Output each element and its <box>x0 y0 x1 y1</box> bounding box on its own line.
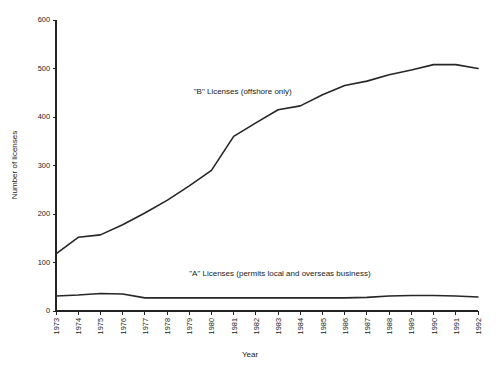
line-chart-canvas: 0100200300400500600 19731974197519761977… <box>0 0 504 375</box>
y-axis: 0100200300400500600 <box>38 15 56 315</box>
y-axis-tick-label: 200 <box>38 209 50 218</box>
series-lines <box>56 65 478 298</box>
series-annotation-label: "A" Licenses (permits local and overseas… <box>189 269 371 278</box>
y-axis-tick-label: 500 <box>38 64 50 73</box>
x-axis-tick-label: 1982 <box>252 318 261 334</box>
x-axis-tick-label: 1981 <box>230 318 239 334</box>
x-axis: 1973197419751976197719781979198019811982… <box>52 311 483 334</box>
series-line <box>56 294 478 298</box>
y-axis-title: Number of licenses <box>10 131 19 199</box>
x-axis-tick-label: 1975 <box>96 318 105 334</box>
series-annotation-label: "B" Licenses (offshore only) <box>194 87 292 96</box>
y-axis-tick-label: 300 <box>38 161 50 170</box>
x-axis-tick-label: 1980 <box>207 318 216 334</box>
x-axis-tick-label: 1984 <box>296 318 305 334</box>
x-axis-tick-label: 1973 <box>52 318 61 334</box>
x-axis-tick-label: 1992 <box>474 318 483 334</box>
x-axis-tick-label: 1990 <box>430 318 439 334</box>
x-axis-tick-label: 1976 <box>119 318 128 334</box>
x-axis-tick-label: 1986 <box>341 318 350 334</box>
x-axis-tick-label: 1979 <box>185 318 194 334</box>
x-axis-title: Year <box>242 350 259 359</box>
x-axis-tick-label: 1977 <box>141 318 150 334</box>
series-annotations: "B" Licenses (offshore only)"A" Licenses… <box>189 87 371 278</box>
x-axis-tick-label: 1991 <box>452 318 461 334</box>
x-axis-tick-label: 1978 <box>163 318 172 334</box>
y-axis-tick-label: 0 <box>46 306 50 315</box>
y-axis-tick-label: 400 <box>38 112 50 121</box>
x-axis-tick-label: 1989 <box>407 318 416 334</box>
x-axis-tick-label: 1985 <box>319 318 328 334</box>
y-axis-tick-label: 600 <box>38 15 50 24</box>
x-axis-tick-label: 1987 <box>363 318 372 334</box>
x-axis-tick-label: 1988 <box>385 318 394 334</box>
chart-container: 0100200300400500600 19731974197519761977… <box>0 0 504 375</box>
x-axis-tick-label: 1974 <box>74 318 83 334</box>
x-axis-tick-label: 1983 <box>274 318 283 334</box>
y-axis-tick-label: 100 <box>38 258 50 267</box>
